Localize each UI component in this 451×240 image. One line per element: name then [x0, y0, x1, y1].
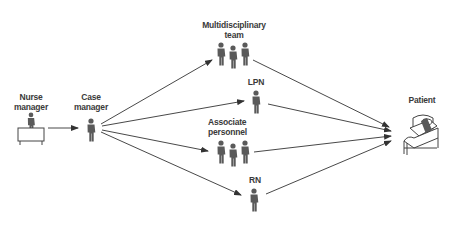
multidisciplinary-team-label-line2: team: [198, 30, 270, 40]
patient-in-bed-icon: [404, 115, 438, 155]
rn-label-line1: RN: [240, 175, 270, 185]
multidisciplinary-team-icon: [218, 42, 250, 68]
edge-case-to-team: [101, 60, 212, 124]
associate-personnel-icon: [218, 140, 250, 166]
associate-personnel-label-line2: personnel: [208, 127, 258, 137]
multidisciplinary-team-label: Multidisciplinary team: [198, 20, 270, 40]
associate-personnel-label: Associate personnel: [208, 117, 258, 137]
nurse-manager-label-line1: Nurse: [10, 92, 52, 102]
patient-label-line1: Patient: [400, 95, 444, 105]
lpn-label-line1: LPN: [240, 77, 272, 87]
edge-case-to-associate: [102, 130, 208, 151]
associate-personnel-label-line1: Associate: [208, 117, 258, 127]
lpn-label: LPN: [240, 77, 272, 87]
lpn-icon: [253, 90, 261, 113]
multidisciplinary-team-label-line1: Multidisciplinary: [198, 20, 270, 30]
nurse-manager-icon: [18, 113, 44, 145]
edge-team-to-patient: [253, 60, 389, 127]
case-manager-icon: [88, 118, 96, 141]
nurse-manager-label-line2: manager: [10, 102, 52, 112]
rn-icon: [251, 188, 259, 211]
case-manager-label: Case manager: [70, 92, 112, 112]
patient-label: Patient: [400, 95, 444, 105]
nurse-manager-label: Nurse manager: [10, 92, 52, 112]
edge-lpn-to-patient: [268, 104, 391, 131]
case-manager-label-line1: Case: [70, 92, 112, 102]
case-manager-label-line2: manager: [70, 102, 112, 112]
rn-label: RN: [240, 175, 270, 185]
edge-rn-to-patient: [266, 141, 391, 194]
